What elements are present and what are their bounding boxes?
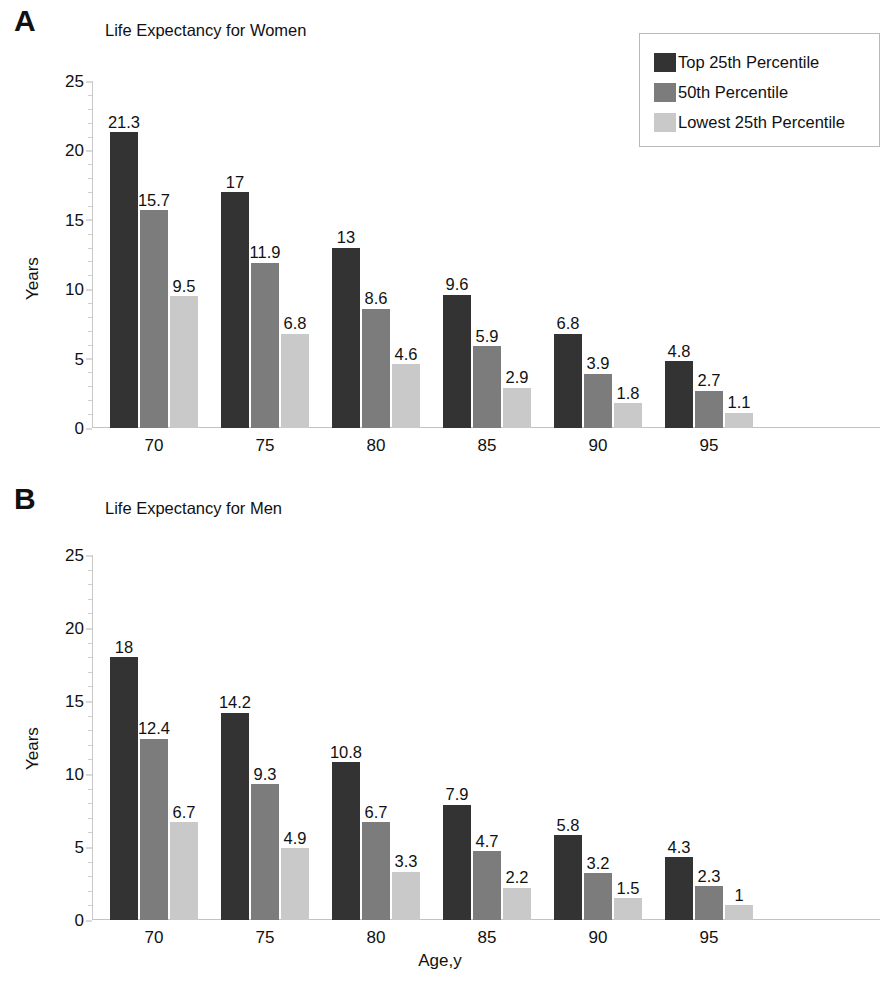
y-axis-tick-label: 20 (36, 142, 84, 159)
y-axis-minor-tick (88, 206, 92, 207)
bar-group: 138.64.680 (332, 81, 420, 428)
bar-value-label: 21.3 (108, 114, 140, 131)
y-axis-tick-label: 5 (36, 350, 84, 367)
y-axis-tick-mark (86, 428, 92, 429)
panel-a-title: Life Expectancy for Women (105, 22, 306, 39)
bar: 4.6 (392, 364, 420, 428)
legend-label-lowest-25th: Lowest 25th Percentile (678, 114, 845, 131)
panel-b-y-axis-line (92, 555, 93, 920)
x-axis-tick-label: 80 (367, 929, 386, 946)
legend-item-top-25th: Top 25th Percentile (654, 51, 819, 73)
y-axis-minor-tick (88, 759, 92, 760)
bar-group: 4.32.3195 (665, 555, 753, 920)
panel-b-letter: B (14, 484, 35, 514)
y-axis-minor-tick (88, 303, 92, 304)
y-axis-minor-tick (88, 261, 92, 262)
bar-value-label: 1.1 (728, 394, 751, 411)
y-axis-minor-tick (88, 686, 92, 687)
bar: 3.3 (392, 872, 420, 920)
legend-swatch-lowest-25th (654, 113, 676, 132)
bar-group: 21.315.79.570 (110, 81, 198, 428)
bar-group: 14.29.34.975 (221, 555, 309, 920)
bar: 4.9 (281, 848, 309, 920)
y-axis-minor-tick (88, 789, 92, 790)
bar: 4.8 (665, 361, 693, 428)
bar-value-label: 18 (115, 639, 133, 656)
y-axis-tick-mark (86, 920, 92, 921)
x-axis-tick-label: 75 (256, 929, 275, 946)
y-axis-tick-label: 20 (36, 620, 84, 637)
bar: 9.6 (443, 295, 471, 428)
bar: 6.8 (281, 334, 309, 428)
bar-value-label: 6.7 (365, 804, 388, 821)
legend-label-top-25th: Top 25th Percentile (678, 54, 819, 71)
y-axis-minor-tick (88, 345, 92, 346)
bar-value-label: 3.2 (587, 855, 610, 872)
bar-value-label: 7.9 (446, 786, 469, 803)
bar: 4.7 (473, 851, 501, 920)
y-axis-tick-label: 25 (36, 73, 84, 90)
y-axis-tick-mark (86, 150, 92, 151)
bar-value-label: 4.3 (668, 839, 691, 856)
y-axis-minor-tick (88, 643, 92, 644)
bar: 1.5 (614, 898, 642, 920)
bar-value-label: 2.9 (506, 369, 529, 386)
y-axis-minor-tick (88, 372, 92, 373)
y-axis-minor-tick (88, 192, 92, 193)
bar: 17 (221, 192, 249, 428)
bar: 6.7 (362, 822, 390, 920)
legend: Top 25th Percentile 50th Percentile Lowe… (639, 33, 880, 147)
bar-group: 7.94.72.285 (443, 555, 531, 920)
bar-group: 5.83.21.590 (554, 555, 642, 920)
bar: 1.8 (614, 403, 642, 428)
bar: 9.5 (170, 296, 198, 428)
panel-b: B Life Expectancy for Men 05101520251812… (0, 478, 880, 984)
y-axis-minor-tick (88, 672, 92, 673)
bar: 2.3 (695, 886, 723, 920)
y-axis-minor-tick (88, 730, 92, 731)
x-axis-tick-label: 95 (700, 929, 719, 946)
bar: 6.8 (554, 334, 582, 428)
legend-item-lowest-25th: Lowest 25th Percentile (654, 111, 845, 133)
y-axis-tick-mark (86, 774, 92, 775)
bar-value-label: 4.7 (476, 833, 499, 850)
y-axis-tick-label: 10 (36, 766, 84, 783)
bar-group: 9.65.92.985 (443, 81, 531, 428)
bar-value-label: 8.6 (365, 290, 388, 307)
bar: 5.8 (554, 835, 582, 920)
y-axis-minor-tick (88, 178, 92, 179)
y-axis-minor-tick (88, 599, 92, 600)
y-axis-minor-tick (88, 745, 92, 746)
bar: 14.2 (221, 713, 249, 920)
bar-value-label: 4.8 (668, 343, 691, 360)
panel-b-plot-area: 05101520251812.46.77014.29.34.97510.86.7… (92, 555, 880, 920)
y-axis-tick-mark (86, 555, 92, 556)
y-axis-tick-mark (86, 81, 92, 82)
y-axis-minor-tick (88, 862, 92, 863)
y-axis-minor-tick (88, 891, 92, 892)
bar-value-label: 9.5 (173, 278, 196, 295)
bar: 3.9 (584, 374, 612, 428)
bar: 10.8 (332, 762, 360, 920)
x-axis-tick-label: 90 (589, 929, 608, 946)
bar-value-label: 10.8 (330, 744, 362, 761)
bar-group: 10.86.73.380 (332, 555, 420, 920)
x-axis-tick-label: 70 (145, 929, 164, 946)
legend-swatch-top-25th (654, 53, 676, 72)
x-axis-title: Age,y (0, 952, 880, 969)
bar-value-label: 4.9 (284, 830, 307, 847)
y-axis-minor-tick (88, 832, 92, 833)
bar-value-label: 3.9 (587, 355, 610, 372)
bar-value-label: 13 (337, 229, 355, 246)
bar-value-label: 2.7 (698, 372, 721, 389)
bar-value-label: 3.3 (395, 853, 418, 870)
bar-value-label: 1.5 (617, 880, 640, 897)
x-axis-tick-label: 85 (478, 437, 497, 454)
bar: 4.3 (665, 857, 693, 920)
panel-a-letter: A (14, 6, 35, 36)
bar: 6.7 (170, 822, 198, 920)
y-axis-minor-tick (88, 876, 92, 877)
legend-item-50th: 50th Percentile (654, 81, 788, 103)
bar: 18 (110, 657, 138, 920)
y-axis-tick-label: 15 (36, 693, 84, 710)
